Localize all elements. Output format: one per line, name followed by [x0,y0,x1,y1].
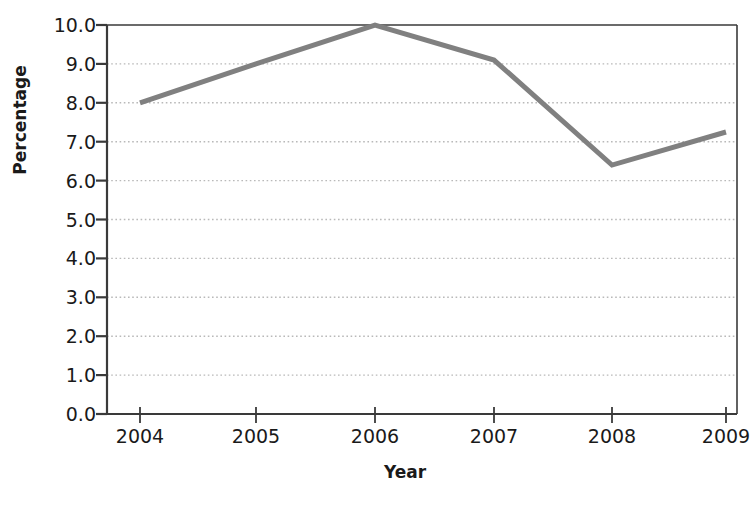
chart-figure: Percentage 0.01.02.03.04.05.06.07.08.09.… [0,0,756,506]
series-line-percentage [140,25,726,165]
plot-area [0,0,756,506]
data-series-line [140,25,726,165]
gridlines [107,64,737,375]
